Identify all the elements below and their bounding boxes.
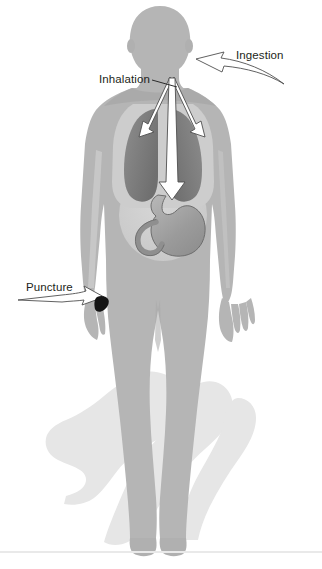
puncture-wound-mark <box>94 296 108 312</box>
right-foot <box>160 538 187 556</box>
bottom-divider <box>0 551 322 553</box>
label-ingestion: Ingestion <box>236 49 284 61</box>
ear-right <box>185 39 193 53</box>
right-hand <box>219 298 255 342</box>
label-inhalation: Inhalation <box>99 73 150 85</box>
left-foot <box>130 538 157 556</box>
ear-left <box>127 39 135 53</box>
label-puncture: Puncture <box>26 281 73 293</box>
